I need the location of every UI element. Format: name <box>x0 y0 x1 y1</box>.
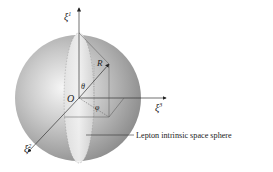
origin-label: O <box>67 93 74 104</box>
phi-label: φ <box>95 103 100 112</box>
radius-label: R <box>96 58 103 68</box>
sphere-diagram: ξ1 ξ3 ξ2 O R θ φ Lepton intrinsic space … <box>0 0 273 172</box>
xi3-label: ξ3 <box>155 102 162 114</box>
xi2-label: ξ2 <box>24 143 31 155</box>
theta-label: θ <box>81 82 85 91</box>
xi1-label: ξ1 <box>64 11 71 23</box>
callout-text: Lepton intrinsic space sphere <box>136 131 232 140</box>
